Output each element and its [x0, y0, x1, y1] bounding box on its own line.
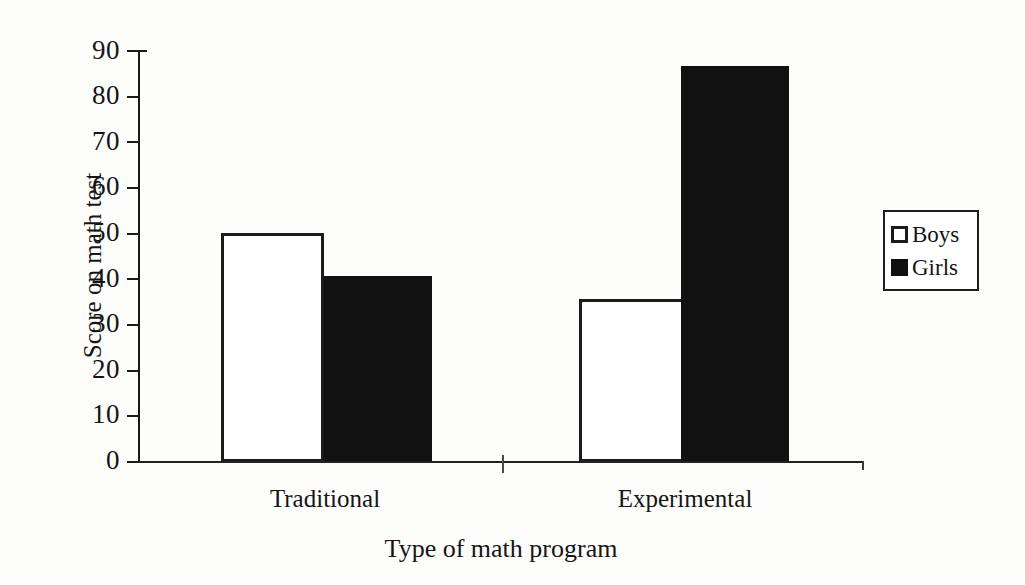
- y-tick-label-10-wrap: 10: [62, 401, 120, 428]
- legend: Boys Girls: [883, 210, 979, 291]
- y-tick-label-20: 20: [72, 356, 120, 383]
- bar-traditional-girls[interactable]: [324, 276, 432, 462]
- legend-item-boys[interactable]: Boys: [891, 218, 972, 251]
- y-tick-label-80-wrap: 80: [62, 82, 120, 109]
- x-axis-line: [138, 461, 864, 463]
- y-tick-label-30-wrap: 30: [62, 310, 120, 337]
- bar-experimental-boys[interactable]: [579, 299, 684, 462]
- y-tick-label-90-wrap: 90: [62, 37, 120, 64]
- y-tick-label-40-wrap: 40: [62, 265, 120, 292]
- y-tick-label-50-wrap: 50: [62, 219, 120, 246]
- y-tick-label-60-wrap: 60: [62, 173, 120, 200]
- y-tick-label-10: 10: [72, 401, 120, 428]
- bar-experimental-girls[interactable]: [681, 66, 789, 462]
- x-axis-title: Type of math program: [0, 534, 1002, 564]
- open-square-swatch-icon: [891, 226, 908, 243]
- y-tick-label-20-wrap: 20: [62, 356, 120, 383]
- y-tick-label-60: 60: [72, 173, 120, 200]
- x-category-label-traditional: Traditional: [205, 484, 445, 514]
- y-tick-label-40: 40: [72, 265, 120, 292]
- y-tick-label-50: 50: [72, 219, 120, 246]
- y-tick-label-30: 30: [72, 310, 120, 337]
- y-tick-label-0: 0: [72, 447, 120, 474]
- y-tick-label-0-wrap: 0: [62, 447, 120, 474]
- legend-label-boys: Boys: [912, 223, 959, 246]
- bar-traditional-boys[interactable]: [221, 233, 324, 462]
- y-tick-label-80: 80: [72, 82, 120, 109]
- y-axis-top-cap: [138, 50, 147, 52]
- y-tick-label-70: 70: [72, 128, 120, 155]
- y-tick-label-70-wrap: 70: [62, 128, 120, 155]
- x-category-label-experimental: Experimental: [565, 484, 805, 514]
- legend-item-girls[interactable]: Girls: [891, 251, 972, 284]
- filled-square-swatch-icon: [891, 259, 908, 276]
- x-axis-right-cap: [862, 461, 864, 470]
- y-tick-label-90: 90: [72, 37, 120, 64]
- bar-chart-figure: Score on math test 90 80 70 60 50 40 30 …: [0, 0, 1025, 585]
- x-axis-category-divider: [502, 455, 504, 473]
- y-axis-line: [138, 50, 140, 462]
- legend-label-girls: Girls: [912, 256, 958, 279]
